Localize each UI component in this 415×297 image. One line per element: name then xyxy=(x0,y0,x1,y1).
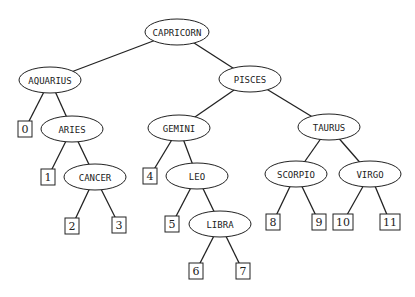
tree-leaf-6: 6 xyxy=(189,263,203,279)
node-label: SCORPIO xyxy=(277,170,315,180)
node-label: LIBRA xyxy=(206,220,234,230)
leaf-label: 9 xyxy=(316,216,323,229)
tree-node-pisces: PISCES xyxy=(219,66,281,92)
tree-node-leo: LEO xyxy=(166,163,228,189)
leaf-label: 2 xyxy=(69,220,76,233)
node-label: CANCER xyxy=(79,173,112,183)
tree-leaf-11: 11 xyxy=(380,214,400,230)
tree-leaf-2: 2 xyxy=(65,218,79,234)
node-label: CAPRICORN xyxy=(153,28,202,38)
leaf-label: 3 xyxy=(116,219,123,232)
tree-node-libra: LIBRA xyxy=(189,211,251,237)
tree-node-aquarius: AQUARIUS xyxy=(19,67,81,93)
tree-node-taurus: TAURUS xyxy=(298,114,360,140)
tree-leaf-3: 3 xyxy=(112,217,126,233)
tree-leaf-9: 9 xyxy=(312,214,326,230)
node-label: VIRGO xyxy=(356,170,383,180)
tree-leaf-4: 4 xyxy=(143,168,157,184)
tree-leaf-7: 7 xyxy=(236,263,250,279)
leaf-label: 0 xyxy=(22,123,29,136)
tree-node-gemini: GEMINI xyxy=(148,115,210,141)
leaf-label: 5 xyxy=(169,218,176,231)
binary-tree-diagram: CAPRICORNAQUARIUSPISCESARIESGEMINITAURUS… xyxy=(0,0,415,297)
node-label: GEMINI xyxy=(163,124,196,134)
node-label: ARIES xyxy=(58,125,85,135)
leaf-label: 10 xyxy=(336,216,350,229)
node-label: AQUARIUS xyxy=(28,76,71,86)
tree-node-virgo: VIRGO xyxy=(339,161,401,187)
node-label: LEO xyxy=(189,172,205,182)
tree-leaf-8: 8 xyxy=(266,214,280,230)
tree-node-scorpio: SCORPIO xyxy=(265,161,327,187)
leaf-label: 8 xyxy=(270,216,277,229)
tree-node-aries: ARIES xyxy=(41,116,103,142)
node-label: TAURUS xyxy=(313,123,346,133)
leaf-label: 7 xyxy=(240,265,247,278)
tree-leaf-0: 0 xyxy=(18,121,32,137)
tree-leaf-10: 10 xyxy=(333,214,353,230)
leaf-label: 6 xyxy=(193,265,200,278)
leaf-label: 11 xyxy=(383,216,397,229)
tree-node-cancer: CANCER xyxy=(64,164,126,190)
leaf-label: 1 xyxy=(45,171,52,184)
node-label: PISCES xyxy=(234,75,267,85)
tree-leaf-5: 5 xyxy=(165,216,179,232)
tree-node-capricorn: CAPRICORN xyxy=(145,19,209,45)
leaf-label: 4 xyxy=(147,170,154,183)
tree-leaf-1: 1 xyxy=(41,169,55,185)
